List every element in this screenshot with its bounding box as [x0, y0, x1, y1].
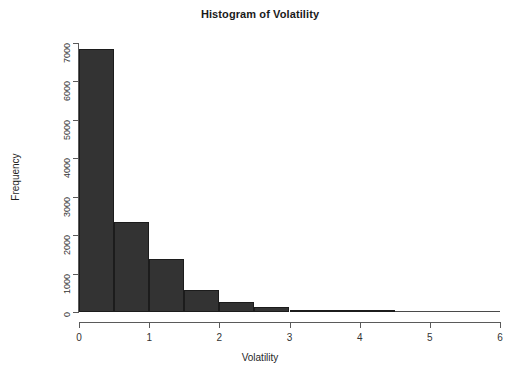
y-axis-tick-label-text: 3000	[62, 197, 72, 217]
y-axis-tick-label-text: 4000	[62, 158, 72, 178]
y-axis-tick-label-text: 6000	[62, 81, 72, 101]
x-axis-tick	[219, 322, 220, 328]
y-axis-tick-label-text: 5000	[62, 120, 72, 140]
histogram-figure: Histogram of Volatility Frequency 010002…	[0, 0, 520, 385]
x-axis-tick	[430, 322, 431, 328]
y-axis-tick-label-text: 0	[62, 312, 72, 317]
x-axis-tick	[360, 322, 361, 328]
histogram-bar	[114, 222, 149, 312]
chart-title: Histogram of Volatility	[0, 8, 520, 20]
x-axis-tick-label: 3	[287, 332, 293, 343]
x-axis-tick-label: 4	[357, 332, 363, 343]
histogram-bar	[219, 302, 254, 312]
x-axis-tick	[79, 322, 80, 328]
plot-area	[79, 43, 500, 312]
y-axis-title-label: Frequency	[10, 153, 21, 200]
histogram-bar	[149, 259, 184, 312]
histogram-bar	[79, 49, 114, 312]
y-axis-title: Frequency	[8, 0, 22, 385]
histogram-bar	[254, 307, 289, 312]
histogram-bar	[395, 311, 430, 312]
histogram-bar	[360, 310, 395, 312]
histogram-bar	[465, 311, 500, 312]
y-axis: 01000200030004000500060007000	[70, 43, 79, 312]
x-axis-tick	[149, 322, 150, 328]
x-axis-tick-label: 5	[427, 332, 433, 343]
x-axis-tick-label: 1	[146, 332, 152, 343]
x-axis-tick	[290, 322, 291, 328]
y-axis-tick	[73, 312, 79, 313]
x-axis-tick	[500, 322, 501, 328]
x-axis-tick-label: 2	[217, 332, 223, 343]
histogram-bar	[430, 311, 465, 312]
y-axis-tick-label-text: 2000	[62, 235, 72, 255]
x-axis: 0123456	[79, 322, 500, 332]
x-axis-tick-label: 6	[497, 332, 503, 343]
y-axis-tick-label-text: 1000	[62, 274, 72, 294]
histogram-bar	[184, 290, 219, 312]
histogram-bar	[325, 310, 360, 312]
y-axis-tick-label-text: 7000	[62, 43, 72, 63]
histogram-bar	[290, 310, 325, 312]
x-axis-title: Volatility	[0, 352, 520, 363]
x-axis-tick-label: 0	[76, 332, 82, 343]
